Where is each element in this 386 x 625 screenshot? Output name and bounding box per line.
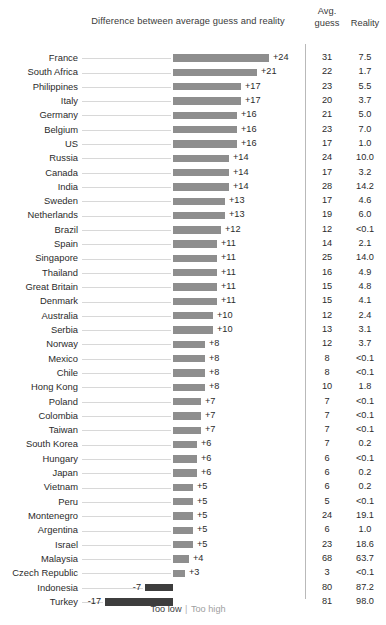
reality-value: 19.1 (344, 510, 386, 520)
country-label: Singapore (35, 252, 78, 263)
chart-row: South Africa+21221.7 (0, 65, 386, 79)
reality-value: 87.2 (344, 582, 386, 592)
country-label: Italy (61, 95, 78, 106)
leader-line (82, 173, 171, 174)
difference-bar (173, 355, 205, 362)
leader-line (82, 359, 171, 360)
chart-row: Israel+52318.6 (0, 538, 386, 552)
avg-guess-value: 12 (310, 310, 344, 320)
avg-guess-value: 6 (310, 524, 344, 534)
leader-line (82, 130, 171, 131)
leader-line (82, 416, 171, 417)
bar-value-label: +17 (245, 95, 261, 105)
bar-value-label: +6 (201, 438, 211, 448)
reality-value: <0.1 (344, 496, 386, 506)
reality-value: 2.1 (344, 238, 386, 248)
reality-value: <0.1 (344, 424, 386, 434)
difference-bar (173, 527, 193, 534)
reality-value: 7.5 (344, 52, 386, 62)
reality-value: 3.7 (344, 95, 386, 105)
chart-row: Russia+142410.0 (0, 151, 386, 165)
chart-row: Sweden+13174.6 (0, 194, 386, 208)
country-label: Norway (46, 338, 78, 349)
country-label: Malaysia (41, 553, 78, 564)
difference-bar (173, 212, 225, 219)
difference-bar (173, 384, 205, 391)
country-label: Serbia (51, 324, 78, 335)
reality-value: <0.1 (344, 367, 386, 377)
difference-bar (173, 54, 269, 61)
chart-row: Vietnam+560.2 (0, 480, 386, 494)
reality-value: 1.0 (344, 138, 386, 148)
bar-value-label: +14 (233, 181, 249, 191)
difference-bar (173, 226, 221, 233)
chart-row: Denmark+11154.1 (0, 294, 386, 308)
legend-separator: | (184, 604, 188, 614)
leader-line (82, 302, 171, 303)
leader-line (82, 201, 171, 202)
avg-guess-value: 7 (310, 424, 344, 434)
avg-guess-value: 6 (310, 467, 344, 477)
avg-guess-value: 81 (310, 596, 344, 606)
country-label: Philippines (33, 81, 78, 92)
difference-bar (173, 83, 241, 90)
leader-line (82, 373, 171, 374)
leader-line (82, 216, 171, 217)
reality-value: 18.6 (344, 539, 386, 549)
bar-value-label: +11 (221, 252, 236, 262)
bar-value-label: +14 (233, 167, 249, 177)
reality-value: 4.6 (344, 195, 386, 205)
country-label: Brazil (55, 224, 78, 235)
country-label: Netherlands (27, 209, 78, 220)
leader-line (82, 473, 171, 474)
avg-guess-value: 14 (310, 238, 344, 248)
difference-bar (145, 584, 173, 591)
bar-value-label: +5 (197, 496, 207, 506)
leader-line (82, 387, 171, 388)
country-label: Indonesia (37, 582, 78, 593)
chart-row: Netherlands+13196.0 (0, 208, 386, 222)
reality-value: 0.2 (344, 438, 386, 448)
chart-row: Serbia+10133.1 (0, 323, 386, 337)
chart-row: Mexico+88<0.1 (0, 352, 386, 366)
avg-guess-value: 3 (310, 567, 344, 577)
reality-value: 7.0 (344, 124, 386, 134)
leader-line (82, 316, 171, 317)
bar-value-label: +13 (229, 209, 245, 219)
country-label: Denmark (40, 295, 78, 306)
leader-line (82, 573, 171, 574)
chart-row: Argentina+561.0 (0, 523, 386, 537)
reality-value: <0.1 (344, 224, 386, 234)
difference-bar (173, 112, 237, 119)
avg-guess-value: 17 (310, 167, 344, 177)
country-label: Germany (39, 109, 78, 120)
chart-row: Italy+17203.7 (0, 94, 386, 108)
chart-row: Germany+16215.0 (0, 108, 386, 122)
leader-line (82, 187, 171, 188)
reality-value: <0.1 (344, 453, 386, 463)
column-header-reality: Reality (344, 18, 386, 28)
leader-line (82, 273, 171, 274)
chart-row: Japan+660.2 (0, 466, 386, 480)
bar-value-label: +7 (205, 410, 215, 420)
country-label: Canada (45, 167, 78, 178)
bar-value-label: +11 (221, 295, 236, 305)
reality-value: 4.8 (344, 281, 386, 291)
avg-guess-value: 6 (310, 481, 344, 491)
reality-value: 3.7 (344, 338, 386, 348)
country-label: South Korea (26, 438, 78, 449)
country-label: Japan (52, 467, 78, 478)
leader-line (82, 344, 171, 345)
country-label: Russia (49, 152, 78, 163)
chart-row: Philippines+17235.5 (0, 80, 386, 94)
reality-value: 0.2 (344, 467, 386, 477)
chart-row: Norway+8123.7 (0, 337, 386, 351)
leader-line (82, 559, 171, 560)
country-label: Peru (58, 496, 78, 507)
avg-guess-value: 22 (310, 66, 344, 76)
avg-guess-value: 15 (310, 281, 344, 291)
difference-bar (173, 369, 205, 376)
avg-guess-value: 28 (310, 181, 344, 191)
difference-bar (173, 484, 193, 491)
difference-bar (173, 126, 237, 133)
